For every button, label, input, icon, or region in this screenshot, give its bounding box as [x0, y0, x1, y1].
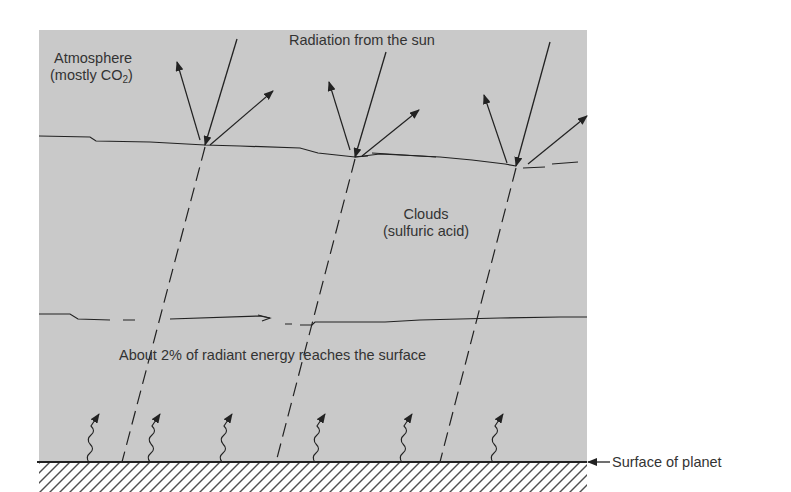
incoming-ray-2: [355, 52, 386, 157]
clouds-label-line2: (sulfuric acid): [371, 223, 481, 240]
heat-arrow-1: [87, 414, 99, 462]
atmosphere-label: Atmosphere (mostly CO2): [50, 50, 133, 84]
heat-arrow-4: [313, 414, 325, 462]
radiation-label: Radiation from the sun: [289, 32, 435, 49]
incoming-ray-1: [205, 39, 237, 145]
clouds-label-line1: Clouds: [371, 206, 481, 223]
heat-arrow-2: [148, 414, 160, 462]
reflected-ray-2a: [329, 82, 350, 150]
atmosphere-label-line1: Atmosphere: [50, 50, 133, 67]
heat-arrow-6: [491, 414, 503, 462]
reflected-ray-1a: [177, 62, 200, 140]
clouds-label: Clouds (sulfuric acid): [371, 206, 481, 240]
reflected-ray-3b: [528, 116, 587, 164]
cloud-top-boundary: [39, 136, 516, 166]
reflected-ray-3a: [484, 95, 507, 163]
heat-arrow-5: [400, 414, 412, 462]
transmitted-ray-2: [276, 159, 355, 462]
reflected-ray-2b: [362, 110, 419, 156]
incoming-ray-3: [516, 42, 550, 166]
atmosphere-label-line2: (mostly CO2): [50, 67, 133, 84]
heat-arrow-3: [220, 414, 232, 462]
cloud-bottom-boundary: [39, 314, 587, 325]
ground-hatching: [39, 463, 587, 492]
transmitted-ray-1: [122, 147, 205, 462]
surface-label: Surface of planet: [612, 454, 722, 471]
heat-arrows: [87, 414, 503, 462]
energy-label: About 2% of radiant energy reaches the s…: [119, 347, 426, 364]
